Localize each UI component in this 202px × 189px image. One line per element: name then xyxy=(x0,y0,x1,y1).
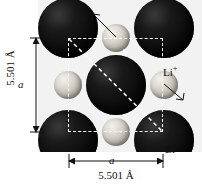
left-edge-length-label: 5.501 Å xyxy=(4,36,16,100)
left-edge-symbol-label: a xyxy=(18,78,24,90)
anion-charge: − xyxy=(176,141,181,150)
face-diagonal-line xyxy=(68,38,163,132)
diagonal-label: h xyxy=(122,47,127,58)
bottom-dimension-line xyxy=(69,154,163,168)
cation-charge: + xyxy=(173,64,178,73)
anion-symbol: Br xyxy=(165,143,176,155)
crystal-lattice-view: h xyxy=(38,0,202,152)
crystal-structure-figure: h xyxy=(0,0,202,189)
bottom-edge-symbol-label: a xyxy=(109,154,115,166)
cation-symbol: Li xyxy=(163,66,173,78)
bottom-edge-length-label: 5.501 Å xyxy=(70,169,162,181)
cation-label: Li+ xyxy=(163,64,177,78)
anion-label: Br− xyxy=(165,141,181,155)
